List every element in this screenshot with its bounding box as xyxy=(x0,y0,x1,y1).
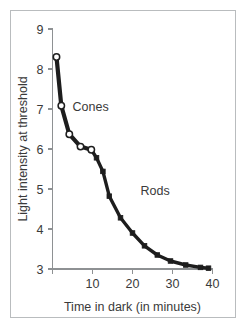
rods-data-point xyxy=(168,259,173,264)
axes-group: 345678910203040Time in dark (in minutes)… xyxy=(16,23,219,315)
rods-data-point xyxy=(130,231,135,236)
cones-data-point xyxy=(88,147,94,153)
y-tick-label: 5 xyxy=(37,183,44,197)
x-tick-label: 10 xyxy=(86,277,100,291)
curve-annotation: Rods xyxy=(141,184,170,198)
cones-data-point xyxy=(77,143,83,149)
x-tick-label: 20 xyxy=(126,277,140,291)
rods-data-point xyxy=(183,263,188,268)
cones-data-point xyxy=(53,54,59,60)
y-tick-label: 6 xyxy=(37,143,44,157)
y-tick-label: 9 xyxy=(37,23,44,37)
cones-data-point xyxy=(66,131,72,137)
rods-data-point xyxy=(94,156,99,161)
rods-data-point xyxy=(107,194,112,199)
figure-frame: 345678910203040Time in dark (in minutes)… xyxy=(10,10,236,318)
rods-data-point xyxy=(118,216,123,221)
y-tick-label: 4 xyxy=(37,223,44,237)
series-group xyxy=(53,54,211,271)
x-axis-title: Time in dark (in minutes) xyxy=(64,300,201,314)
rods-data-point xyxy=(198,265,203,270)
rods-data-point xyxy=(101,169,106,174)
dark-adaptation-chart: 345678910203040Time in dark (in minutes)… xyxy=(11,11,237,319)
x-tick-label: 40 xyxy=(206,277,220,291)
rods-data-point xyxy=(206,266,211,271)
y-tick-label: 7 xyxy=(37,103,44,117)
y-axis-title: Light intensity at threshold xyxy=(16,76,30,221)
figure-root: 345678910203040Time in dark (in minutes)… xyxy=(0,0,252,332)
cones-data-point xyxy=(58,103,64,109)
rods-data-point xyxy=(142,244,147,249)
x-tick-label: 30 xyxy=(166,277,180,291)
y-tick-label: 3 xyxy=(37,263,44,277)
rods-data-point xyxy=(155,253,160,258)
rods-curve xyxy=(91,150,208,268)
y-tick-label: 8 xyxy=(37,63,44,77)
curve-annotation: Cones xyxy=(73,100,109,114)
